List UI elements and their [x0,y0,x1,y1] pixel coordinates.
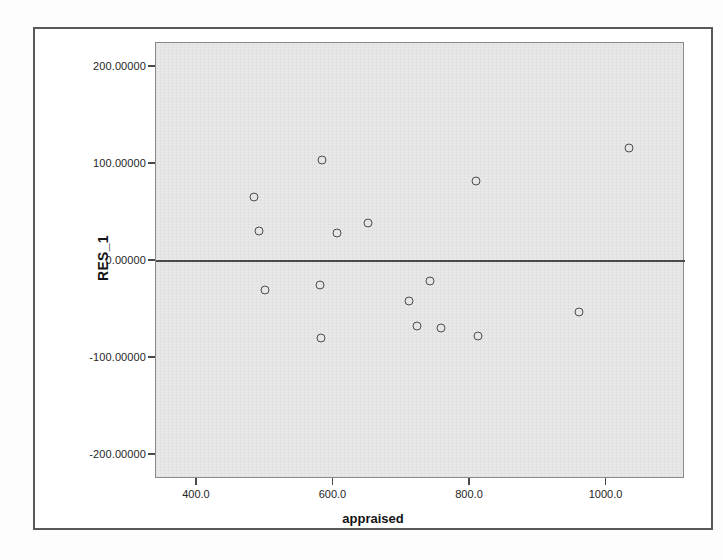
data-point [317,333,326,342]
y-tick-label: 100.00000 [93,157,146,169]
x-tick-label: 600.0 [319,488,347,500]
y-tick [148,65,155,67]
data-point [625,143,634,152]
y-tick-label: -200.00000 [89,448,146,460]
x-tick [468,478,470,485]
y-axis-title: RES_1 [95,228,111,288]
data-point [332,228,341,237]
x-tick-label: 1000.0 [589,488,623,500]
x-tick-label: 400.0 [182,488,210,500]
data-point [404,296,413,305]
x-tick-label: 800.0 [455,488,483,500]
scatter-chart: 200.00000100.000000.00000-100.00000-200.… [33,27,713,530]
y-tick-label: -100.00000 [89,351,146,363]
data-point [317,156,326,165]
data-point [255,226,264,235]
plot-panel [155,42,684,478]
data-point [249,193,258,202]
x-tick [605,478,607,485]
x-tick [332,478,334,485]
y-tick [148,162,155,164]
data-point [426,277,435,286]
data-point [363,219,372,228]
data-point [261,286,270,295]
data-point [575,308,584,317]
y-tick [148,453,155,455]
data-point [472,176,481,185]
y-tick [148,356,155,358]
data-point [413,321,422,330]
y-tick-label: 0.00000 [106,254,146,266]
zero-reference-line [156,260,685,262]
x-axis-title: appraised [33,511,713,526]
data-point [436,323,445,332]
x-tick [195,478,197,485]
y-tick [148,259,155,261]
y-tick-label: 200.00000 [93,60,146,72]
data-point [474,331,483,340]
data-point [315,281,324,290]
